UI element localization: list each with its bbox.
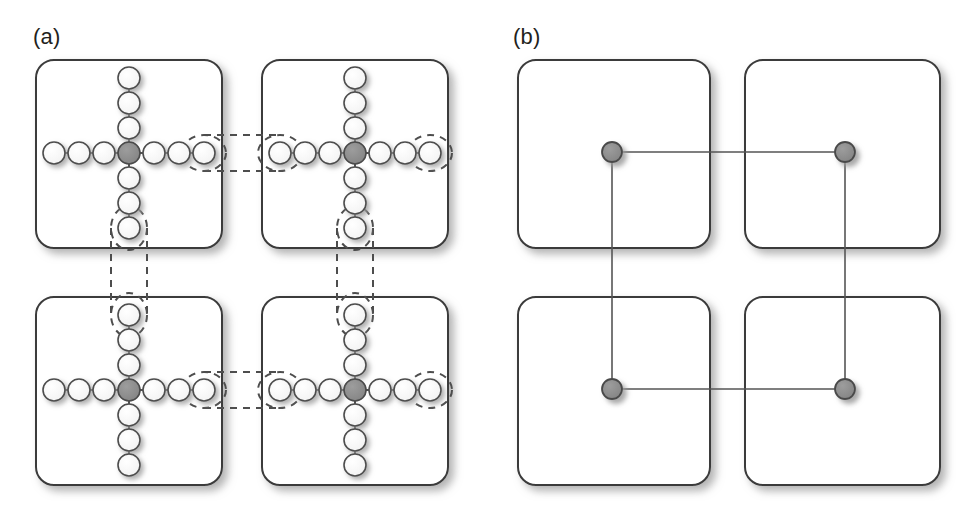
cross-bottom-right-node-h1 <box>369 379 391 401</box>
figure-svg <box>0 0 980 520</box>
cross-bottom-left-node-h-2 <box>68 379 90 401</box>
cross-bottom-left-node-v-3 <box>118 304 140 326</box>
dot-top-left <box>602 142 622 162</box>
cross-top-right-node-v2 <box>344 192 366 214</box>
cross-top-left-node-h-3 <box>43 142 65 164</box>
cross-top-right-node-v-2 <box>344 92 366 114</box>
cross-top-left-node-h3 <box>193 142 215 164</box>
cross-bottom-left-node-h-3 <box>43 379 65 401</box>
panel-b <box>518 60 940 485</box>
cross-top-left-node-v-1 <box>118 117 140 139</box>
cross-top-right-node-v1 <box>344 167 366 189</box>
cross-top-left-node-v-2 <box>118 92 140 114</box>
cross-bottom-left-center-node <box>118 379 140 401</box>
cross-top-right-node-h1 <box>369 142 391 164</box>
dot-top-right <box>835 142 855 162</box>
cross-top-left-node-v2 <box>118 192 140 214</box>
cross-bottom-right-node-h3 <box>419 379 441 401</box>
panel-a <box>36 60 452 485</box>
dot-bottom-left <box>602 379 622 399</box>
cross-bottom-left-node-h1 <box>143 379 165 401</box>
cross-bottom-left-node-v1 <box>118 404 140 426</box>
cross-bottom-left-node-h2 <box>168 379 190 401</box>
cross-bottom-right-node-v-1 <box>344 354 366 376</box>
cross-top-left-node-v3 <box>118 217 140 239</box>
cross-bottom-left-node-v-2 <box>118 329 140 351</box>
cross-bottom-right-node-h2 <box>394 379 416 401</box>
cross-top-right-node-v-1 <box>344 117 366 139</box>
cross-top-left-center-node <box>118 142 140 164</box>
cross-top-left-node-v-3 <box>118 67 140 89</box>
cross-bottom-left-node-h-1 <box>93 379 115 401</box>
cross-top-left-node-h1 <box>143 142 165 164</box>
cross-bottom-left-node-v2 <box>118 429 140 451</box>
cross-bottom-right-node-v1 <box>344 404 366 426</box>
cross-bottom-left-node-h3 <box>193 379 215 401</box>
panel-b-label: (b) <box>513 24 541 50</box>
cross-top-right-node-v-3 <box>344 67 366 89</box>
cross-bottom-right-node-v3 <box>344 454 366 476</box>
figure-canvas: (a) (b) <box>0 0 980 520</box>
cross-top-right-node-h-2 <box>294 142 316 164</box>
cross-bottom-right-node-v-2 <box>344 329 366 351</box>
cross-top-right-center-node <box>344 142 366 164</box>
cross-top-right-node-v3 <box>344 217 366 239</box>
cross-top-right-node-h-3 <box>269 142 291 164</box>
dot-bottom-right <box>835 379 855 399</box>
cross-top-right-node-h-1 <box>319 142 341 164</box>
cross-bottom-left-node-v3 <box>118 454 140 476</box>
panel-a-label: (a) <box>33 24 61 50</box>
cross-top-left-node-h-1 <box>93 142 115 164</box>
cross-bottom-right-center-node <box>344 379 366 401</box>
cross-top-left-node-h-2 <box>68 142 90 164</box>
cross-bottom-right-node-v-3 <box>344 304 366 326</box>
cross-top-right-node-h2 <box>394 142 416 164</box>
cross-bottom-left-node-v-1 <box>118 354 140 376</box>
cross-top-left-node-v1 <box>118 167 140 189</box>
cross-bottom-right-node-h-3 <box>269 379 291 401</box>
cross-top-left-node-h2 <box>168 142 190 164</box>
cross-bottom-right-node-h-1 <box>319 379 341 401</box>
cross-top-right-node-h3 <box>419 142 441 164</box>
cross-bottom-right-node-h-2 <box>294 379 316 401</box>
cross-bottom-right-node-v2 <box>344 429 366 451</box>
